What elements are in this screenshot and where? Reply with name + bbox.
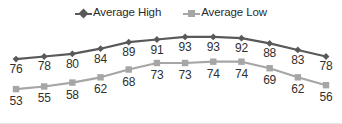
data-point-marker[interactable] xyxy=(13,86,19,92)
data-label: 78 xyxy=(320,60,333,72)
data-point-marker[interactable] xyxy=(69,79,75,85)
data-label: 93 xyxy=(207,41,220,53)
series-lines xyxy=(0,21,342,124)
data-point-marker[interactable] xyxy=(154,60,160,66)
data-point-marker[interactable] xyxy=(266,65,272,71)
series-line-low xyxy=(16,62,326,89)
data-point-marker[interactable] xyxy=(295,74,301,80)
data-label: 73 xyxy=(179,69,192,81)
data-label: 73 xyxy=(150,69,163,81)
data-point-marker[interactable] xyxy=(210,58,216,64)
data-label: 62 xyxy=(94,83,107,95)
data-point-marker[interactable] xyxy=(182,60,188,66)
data-point-marker[interactable] xyxy=(238,58,244,64)
data-label: 69 xyxy=(263,74,276,86)
data-label: 58 xyxy=(66,89,79,101)
data-label: 80 xyxy=(66,58,79,70)
square-marker-icon xyxy=(183,8,200,19)
data-label: 74 xyxy=(207,68,220,80)
data-point-marker[interactable] xyxy=(41,83,47,89)
data-label: 91 xyxy=(150,44,163,56)
data-label: 84 xyxy=(94,53,107,65)
data-point-marker[interactable] xyxy=(323,82,329,88)
data-label: 88 xyxy=(263,47,276,59)
chart-legend: Average High Average Low xyxy=(0,5,342,21)
plot-area: 7678808489919393928883785355586268737374… xyxy=(0,21,342,124)
legend-entry-average-low[interactable]: Average Low xyxy=(183,7,267,19)
chart-container: Average High Average Low 767880848991939… xyxy=(0,0,342,124)
series-line-high xyxy=(16,37,326,59)
data-point-marker[interactable] xyxy=(97,74,103,80)
data-label: 68 xyxy=(122,76,135,88)
data-label: 92 xyxy=(235,42,248,54)
legend-label-average-high: Average High xyxy=(93,7,161,19)
data-point-marker[interactable] xyxy=(126,66,132,72)
legend-entry-average-high[interactable]: Average High xyxy=(75,7,161,19)
data-label: 74 xyxy=(235,68,248,80)
data-label: 83 xyxy=(291,54,304,66)
data-label: 89 xyxy=(122,46,135,58)
data-label: 62 xyxy=(291,83,304,95)
data-label: 56 xyxy=(320,91,333,103)
diamond-marker-icon xyxy=(75,8,92,19)
data-label: 93 xyxy=(179,41,192,53)
data-label: 55 xyxy=(38,92,51,104)
data-label: 76 xyxy=(10,63,23,75)
legend-label-average-low: Average Low xyxy=(201,7,267,19)
data-label: 53 xyxy=(10,95,23,107)
data-label: 78 xyxy=(38,60,51,72)
